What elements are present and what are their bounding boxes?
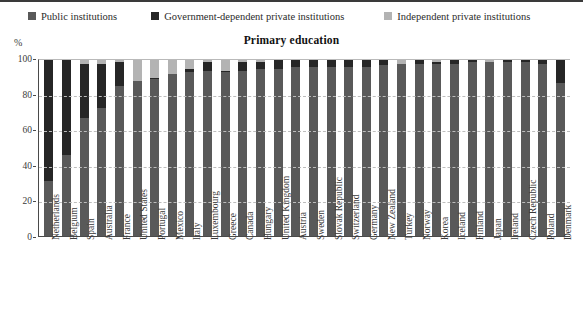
x-tick-label: Australia [105,205,114,240]
x-tick-label: France [123,214,132,240]
gridline [39,202,570,203]
bar-segment [185,60,194,69]
x-label-column: Italy [180,240,198,326]
bar-column[interactable] [446,60,464,236]
x-tick-label: Korea [441,217,450,240]
y-tick-mark [33,237,36,238]
x-label-column: New Zealand [375,240,393,326]
bar-segment [485,62,494,236]
stacked-bar[interactable] [538,60,547,236]
x-label-column: Spain [74,240,92,326]
x-axis-labels: NetherlandsBelgiumSpainAustraliaFranceUn… [38,240,570,326]
x-tick-label: Turkey [405,213,414,240]
x-label-column: Turkey [392,240,410,326]
stacked-bar[interactable] [80,60,89,236]
x-label-column: Norway [410,240,428,326]
bar-segment [468,62,477,236]
bar-segment [44,60,53,181]
x-tick-label: Canada [246,212,255,241]
stacked-bar[interactable] [185,60,194,236]
bar-segment [397,64,406,236]
stacked-bar[interactable] [503,60,512,236]
header-divider [0,0,583,2]
x-tick-label: Norway [423,209,432,240]
legend-item-independent: Independent private institutions [384,11,530,22]
stacked-bar[interactable] [397,60,406,236]
stacked-bar[interactable] [485,60,494,236]
plot-area [38,59,570,237]
bar-column[interactable] [234,60,252,236]
x-label-column: Ireland [498,240,516,326]
legend-item-public: Public institutions [28,11,117,22]
y-tick-mark [33,130,36,131]
y-tick-label: 0 [27,232,32,242]
gridline [39,96,570,97]
bar-segment [150,60,159,78]
gridline [39,167,570,168]
x-label-column: France [110,240,128,326]
bar-segment [185,72,194,236]
x-tick-label: Denmark [564,205,573,240]
x-tick-label: Luxembourg [211,191,220,240]
chart-root: Public institutions Government-dependent… [0,0,583,327]
x-label-column: Mexico [163,240,181,326]
bar-column[interactable] [463,60,481,236]
x-label-column: Canada [233,240,251,326]
x-label-column: Denmark [551,240,569,326]
bar-segment [274,60,283,69]
stacked-bar[interactable] [221,60,230,236]
x-label-column: Slovak Republic [322,240,340,326]
bar-segment [503,62,512,236]
legend-label-gov-dependent: Government-dependent private institution… [164,11,344,22]
legend-label-public: Public institutions [41,11,117,22]
x-tick-label: United States [140,189,149,240]
legend-swatch-public [28,12,36,20]
x-label-column: United Kingdom [269,240,287,326]
bar-segment [221,72,230,236]
y-tick-mark [33,59,36,60]
bar-group [39,60,570,236]
bar-column[interactable] [181,60,199,236]
stacked-bar[interactable] [291,60,300,236]
x-label-column: Hungary [251,240,269,326]
x-tick-label: Czech Republic [529,180,538,240]
stacked-bar[interactable] [450,60,459,236]
x-label-column: Korea [428,240,446,326]
stacked-bar[interactable] [468,60,477,236]
x-tick-label: Netherlands [52,194,61,240]
legend-label-independent: Independent private institutions [397,11,530,22]
bar-segment [291,60,300,67]
stacked-bar[interactable] [432,60,441,236]
x-label-column: Luxembourg [198,240,216,326]
bar-column[interactable] [499,60,517,236]
stacked-bar[interactable] [238,60,247,236]
x-tick-label: Switzerland [352,195,361,240]
y-tick-mark [33,201,36,202]
bar-segment [362,60,371,67]
x-tick-label: Japan [494,218,503,240]
x-label-column: United States [127,240,145,326]
stacked-bar[interactable] [168,60,177,236]
x-tick-label: Sweden [317,210,326,240]
x-tick-label: Mexico [176,211,185,240]
bar-segment [62,60,71,155]
x-label-column: Germany [357,240,375,326]
x-label-column: Australia [92,240,110,326]
bar-segment [327,60,336,67]
y-tick-label: 100 [18,54,32,64]
x-label-column: Finland [463,240,481,326]
bar-segment [344,60,353,67]
bar-segment [309,60,318,67]
y-tick-label: 40 [23,161,33,171]
x-tick-label: Spain [87,218,96,240]
bar-segment [133,60,142,81]
x-label-column: Switzerland [339,240,357,326]
x-tick-label: Belgium [70,207,79,240]
bar-column[interactable] [481,60,499,236]
bar-segment [97,64,106,108]
x-label-column: Netherlands [39,240,57,326]
x-label-column: Greece [216,240,234,326]
gridline [39,131,570,132]
x-tick-label: Hungary [264,207,273,240]
stacked-bar[interactable] [115,60,124,236]
